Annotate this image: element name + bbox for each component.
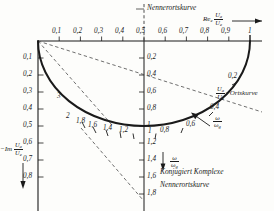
imag-axis-denominator: Ue [14, 150, 23, 157]
center-tick-3: 0,8 [147, 104, 156, 112]
omega-ratio-right: ω ωg [213, 112, 222, 130]
imag-axis-fraction: Ua Ue [14, 142, 23, 157]
ortskurve-suffix: −Ortskurve [225, 89, 258, 97]
imag-axis-left-ticks [38, 58, 44, 177]
center-tick-6: 1,4 [147, 155, 156, 163]
center-tick-0: 0,2 [147, 53, 156, 61]
imag-tick-1: 0,2 [23, 70, 32, 78]
omega-den-right: ωg [213, 122, 222, 129]
nennerortskurve-label: Nennerortskurve [147, 3, 196, 12]
curve-marker-3: 3 [57, 92, 61, 100]
real-tick-8: 0,9 [221, 27, 230, 35]
figure-canvas: Nennerortskurve Ree Ua Ue 0,1 0,2 0,3 0,… [0, 0, 274, 211]
imag-tick-4: 0,5 [23, 121, 32, 129]
ortskurve-label: Ua Ue −Ortskurve [216, 86, 258, 101]
curve-marker-1p2: 1,2 [119, 126, 128, 134]
curve-marker-2: 2 [66, 112, 70, 120]
curve-marker-0p2r: 0,2 [228, 72, 237, 80]
center-tick-1: 0,4 [147, 70, 156, 78]
real-tick-0: 0,1 [52, 27, 61, 35]
real-axis-prefix-sub: e [210, 18, 212, 23]
real-tick-4: 0,5 [136, 27, 145, 35]
real-tick-1: 0,2 [73, 27, 82, 35]
center-tick-2: 0,6 [147, 87, 156, 95]
real-axis-fraction: Ua Ue [214, 12, 223, 27]
real-axis-label: Ree Ua Ue [203, 12, 223, 27]
real-tick-3: 0,4 [115, 27, 124, 35]
denominator-ray-steep [38, 41, 112, 125]
real-tick-6: 0,7 [179, 27, 188, 35]
real-tick-9: 1 [248, 27, 252, 35]
curve-marker-0p4r: 0,4 [210, 103, 219, 111]
konjugiert-line-2: Nennerortskurve [160, 180, 209, 189]
curve-marker-0p8: 0,8 [160, 126, 169, 134]
imag-axis-prefix: −Im [0, 145, 12, 153]
imag-tick-7: 0,8 [23, 172, 32, 180]
konjugiert-line-1: Konjugiert Komplexe [160, 167, 223, 176]
omega-fraction-right: ω ωg [213, 115, 222, 130]
curve-marker-1: 1 [148, 127, 152, 135]
real-tick-7: 0,8 [200, 27, 209, 35]
real-tick-2: 0,3 [94, 27, 103, 35]
real-axis-arrow [232, 18, 262, 23]
curve-marker-1p6: 1,6 [88, 121, 97, 129]
imag-axis-label: −Im Ua Ue [0, 142, 23, 157]
imag-tick-2: 0,3 [23, 87, 32, 95]
real-axis-ticks [59, 35, 250, 41]
center-tick-5: 1,2 [147, 138, 156, 146]
ortskurve-fraction: Ua Ue [216, 86, 225, 101]
curve-marker-1p4: 1,4 [103, 124, 112, 132]
real-tick-5: 0,6 [158, 27, 167, 35]
imag-tick-5: 0,6 [23, 138, 32, 146]
curve-marker-0p6r: 0,6 [186, 120, 195, 128]
curve-marker-1p8: 1,8 [76, 117, 85, 125]
ortskurve-denominator: Ue [216, 94, 225, 101]
center-tick-7: 1,6 [147, 172, 156, 180]
imag-tick-0: 0,1 [23, 53, 32, 61]
imag-tick-3: 0,4 [23, 104, 32, 112]
imag-tick-6: 0,7 [23, 155, 32, 163]
center-tick-8: 1,8 [147, 189, 156, 197]
